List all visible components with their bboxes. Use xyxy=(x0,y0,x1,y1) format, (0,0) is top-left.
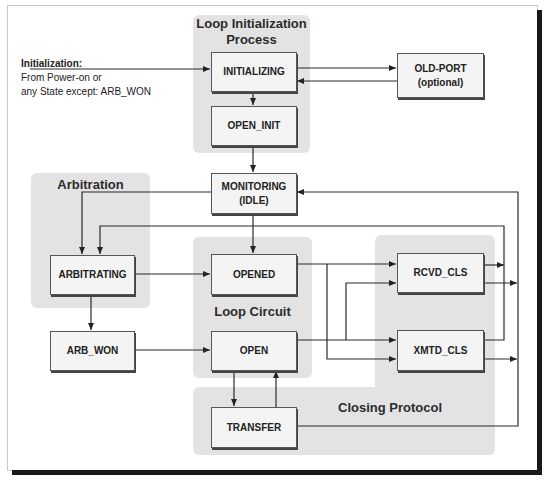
state-old-port: OLD-PORT (optional) xyxy=(397,53,484,98)
state-transfer: TRANSFER xyxy=(211,407,297,448)
state-label: ARB_WON xyxy=(67,344,119,358)
state-sublabel: (optional) xyxy=(418,76,464,90)
state-label: XMTD_CLS xyxy=(414,344,468,358)
state-opened: OPENED xyxy=(211,254,297,295)
state-initializing: INITIALIZING xyxy=(211,52,297,92)
state-label: OPEN_INIT xyxy=(228,119,281,133)
state-label: OPEN xyxy=(240,344,268,358)
initialization-heading: Initialization: xyxy=(21,57,151,71)
state-open-init: OPEN_INIT xyxy=(211,106,297,146)
state-label: OLD-PORT xyxy=(414,62,466,76)
diagram-canvas: Loop Initialization Process Arbitration … xyxy=(0,0,546,480)
state-xmtd-cls: XMTD_CLS xyxy=(397,330,484,371)
state-sublabel: (IDLE) xyxy=(239,194,268,208)
state-label: OPENED xyxy=(233,268,275,282)
initialization-line1: From Power-on or xyxy=(21,71,151,85)
initialization-line2: any State except: ARB_WON xyxy=(21,85,151,99)
state-monitoring: MONITORING (IDLE) xyxy=(211,173,297,214)
state-open: OPEN xyxy=(211,331,297,371)
state-rcvd-cls: RCVD_CLS xyxy=(397,253,484,293)
state-label: ARBITRATING xyxy=(58,268,126,282)
initialization-note: Initialization: From Power-on or any Sta… xyxy=(21,57,151,99)
state-label: MONITORING xyxy=(222,180,287,194)
state-label: INITIALIZING xyxy=(223,65,285,79)
state-label: RCVD_CLS xyxy=(414,266,468,280)
state-arbitrating: ARBITRATING xyxy=(50,255,135,295)
state-arb-won: ARB_WON xyxy=(50,331,135,371)
state-label: TRANSFER xyxy=(227,421,281,435)
